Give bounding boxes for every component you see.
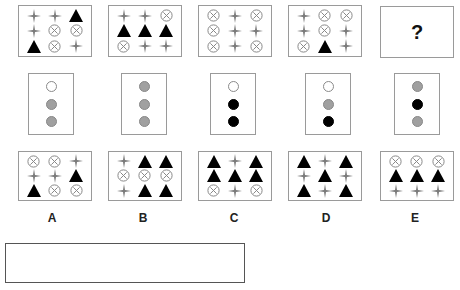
white-circle-icon [46,81,57,92]
triangle-icon [339,154,353,168]
star-icon [228,39,242,53]
crossed-circle-icon [249,9,263,23]
puzzle-box-3 [198,5,272,57]
crossed-circle-icon [207,184,221,198]
star-icon [27,9,41,23]
star-icon [138,39,152,53]
star-icon [117,184,131,198]
option-e-box[interactable] [380,151,454,201]
triangle-icon [207,169,221,183]
black-circle-icon [323,116,334,127]
triangle-icon [410,169,424,183]
star-icon [27,169,41,183]
triangle-icon [159,24,173,38]
dot-column-4 [305,73,351,135]
triangle-icon [138,184,152,198]
crossed-circle-icon [389,154,403,168]
crossed-circle-icon [297,39,311,53]
triangle-icon [159,184,173,198]
crossed-circle-icon [48,24,62,38]
star-icon [339,24,353,38]
star-icon [228,9,242,23]
star-icon [339,39,353,53]
puzzle-box-4 [288,5,362,57]
triangle-icon [339,184,353,198]
option-b-box[interactable] [108,151,182,201]
triangle-icon [138,154,152,168]
gray-circle-icon [46,99,57,110]
option-a-label: A [42,211,62,225]
crossed-circle-icon [48,39,62,53]
gray-circle-icon [323,99,334,110]
gray-circle-icon [139,116,150,127]
star-icon [339,169,353,183]
star-icon [431,184,445,198]
crossed-circle-icon [48,154,62,168]
gray-circle-icon [46,116,57,127]
crossed-circle-icon [207,24,221,38]
crossed-circle-icon [207,9,221,23]
triangle-icon [389,169,403,183]
white-circle-icon [228,81,239,92]
gray-circle-icon [139,99,150,110]
star-icon [297,24,311,38]
star-icon [389,184,403,198]
black-circle-icon [228,99,239,110]
triangle-icon [69,9,83,23]
dot-column-2 [121,73,167,135]
white-circle-icon [323,81,334,92]
crossed-circle-icon [117,169,131,183]
black-circle-icon [228,116,239,127]
triangle-icon [228,169,242,183]
gray-circle-icon [412,81,423,92]
triangle-icon [69,169,83,183]
option-d-label: D [316,211,336,225]
triangle-icon [249,154,263,168]
triangle-icon [318,39,332,53]
option-d-box[interactable] [288,151,362,201]
option-c-box[interactable] [198,151,272,201]
crossed-circle-icon [249,184,263,198]
star-icon [138,9,152,23]
crossed-circle-icon [207,39,221,53]
star-icon [228,154,242,168]
gray-circle-icon [412,116,423,127]
triangle-icon [27,184,41,198]
star-icon [297,9,311,23]
star-icon [159,39,173,53]
triangle-icon [249,169,263,183]
crossed-circle-icon [69,24,83,38]
triangle-icon [117,24,131,38]
question-box: ? [380,6,454,58]
crossed-circle-icon [249,39,263,53]
star-icon [228,184,242,198]
star-icon [228,24,242,38]
crossed-circle-icon [318,24,332,38]
triangle-icon [318,169,332,183]
puzzle-box-2 [108,5,182,57]
crossed-circle-icon [431,154,445,168]
option-e-label: E [405,211,425,225]
star-icon [318,184,332,198]
puzzle-box-1 [18,5,92,57]
question-mark: ? [411,21,423,44]
option-a-box[interactable] [18,151,92,201]
dot-column-3 [210,73,256,135]
option-b-label: B [133,211,153,225]
star-icon [117,154,131,168]
crossed-circle-icon [159,169,173,183]
star-icon [410,184,424,198]
crossed-circle-icon [159,9,173,23]
triangle-icon [138,24,152,38]
black-circle-icon [412,99,423,110]
star-icon [48,9,62,23]
crossed-circle-icon [410,154,424,168]
answer-input-box[interactable] [5,243,245,283]
triangle-icon [207,154,221,168]
crossed-circle-icon [339,9,353,23]
star-icon [69,39,83,53]
star-icon [249,24,263,38]
crossed-circle-icon [48,184,62,198]
star-icon [117,9,131,23]
crossed-circle-icon [27,154,41,168]
